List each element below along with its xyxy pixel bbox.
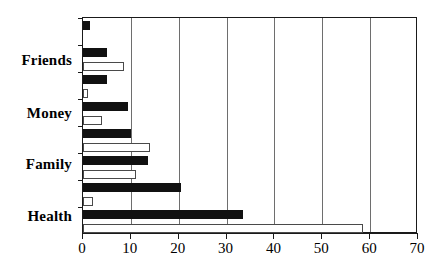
x-axis-tick-label-70: 70 <box>410 240 425 257</box>
y-axis-tick-12 <box>78 180 83 181</box>
y-axis-label-health: Health <box>27 208 72 225</box>
x-axis-tick-30 <box>226 233 227 239</box>
x-axis-tick-50 <box>321 233 322 239</box>
x-axis-tick-label-50: 50 <box>314 240 329 257</box>
x-axis-tick-40 <box>273 233 274 239</box>
bar-light-7 <box>83 116 102 125</box>
y-axis-label-money: Money <box>27 105 72 122</box>
bar-dark-6 <box>83 102 128 111</box>
bar-dark-8 <box>83 129 131 138</box>
y-axis-tick-14 <box>78 207 83 208</box>
bar-light-11 <box>83 170 136 179</box>
bar-light-13 <box>83 197 93 206</box>
bar-light-15 <box>83 224 363 233</box>
x-axis-tick-10 <box>130 233 131 239</box>
bar-light-9 <box>83 143 150 152</box>
bar-chart: Friends Money Family Health 010203040506… <box>0 0 440 276</box>
bar-dark-0 <box>83 21 90 30</box>
x-axis-tick-20 <box>178 233 179 239</box>
bar-light-5 <box>83 89 88 98</box>
x-axis-tick-label-30: 30 <box>218 240 233 257</box>
bar-dark-2 <box>83 48 107 57</box>
x-axis-tick-label-20: 20 <box>170 240 185 257</box>
bar-dark-10 <box>83 156 148 165</box>
bar-light-3 <box>83 62 124 71</box>
y-axis-tick-0 <box>78 18 83 19</box>
x-axis-tick-label-0: 0 <box>78 240 86 257</box>
x-axis-tick-70 <box>417 233 418 239</box>
y-axis-tick-6 <box>78 99 83 100</box>
y-axis-tick-4 <box>78 72 83 73</box>
x-axis-tick-0 <box>82 233 83 239</box>
y-axis-label-friends: Friends <box>21 52 72 69</box>
bar-dark-12 <box>83 183 181 192</box>
bar-layer <box>83 18 416 232</box>
bar-dark-4 <box>83 75 107 84</box>
x-axis-tick-label-40: 40 <box>266 240 281 257</box>
x-axis-tick-60 <box>369 233 370 239</box>
plot-area <box>82 17 417 233</box>
y-axis-tick-2 <box>78 45 83 46</box>
bar-dark-14 <box>83 210 243 219</box>
x-axis-tick-label-10: 10 <box>122 240 137 257</box>
y-axis-category-labels: Friends Money Family Health <box>0 0 76 276</box>
x-axis-line <box>82 233 417 234</box>
y-axis-label-family: Family <box>26 156 72 173</box>
y-axis-tick-10 <box>78 153 83 154</box>
y-axis-tick-8 <box>78 126 83 127</box>
x-axis-tick-label-60: 60 <box>362 240 377 257</box>
